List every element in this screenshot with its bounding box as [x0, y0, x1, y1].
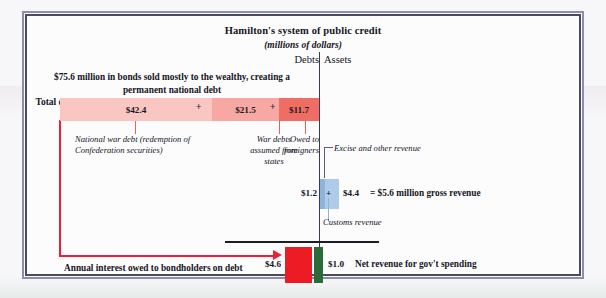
figure-title: Hamilton's system of public credit — [27, 25, 579, 36]
net-revenue-caption: Net revenue for gov't spending — [355, 259, 477, 269]
total-debt-pointer-vertical — [59, 120, 61, 257]
total-debt-pointer-horizontal — [59, 255, 275, 257]
debt-segment-national-war-debt: $42.4 — [60, 98, 212, 121]
net-revenue-value: $1.0 — [328, 259, 344, 269]
figure-subtitle: (millions of dollars) — [27, 40, 579, 50]
revenue-caption-customs: Customs revenue — [323, 217, 403, 228]
figure-container: Hamilton's system of public credit (mill… — [0, 0, 606, 298]
debt-leader-tick-national — [135, 121, 136, 134]
debt-leader-tick-states — [279, 121, 280, 134]
bonds-sold-caption: $75.6 million in bonds sold mostly to th… — [47, 71, 297, 96]
debt-caption-owed-to-foreigners: Owed to foreigners — [275, 134, 319, 156]
subtotal-rule — [225, 241, 379, 243]
gross-revenue-total-label: = $5.6 million gross revenue — [370, 188, 481, 198]
revenue-caption-excise-and-other: Excise and other revenue — [334, 143, 424, 154]
axis-label-debts: Debts — [222, 54, 319, 65]
revenue-bar-customs — [320, 179, 325, 209]
debt-segment-value: $21.5 — [235, 105, 256, 115]
debt-segment-owed-to-foreigners: $11.7 — [279, 98, 319, 121]
debt-plus-operator-1: + — [196, 102, 201, 112]
debt-plus-operator-2: + — [270, 102, 275, 112]
axis-label-assets: Assets — [324, 54, 434, 65]
excise-leader-bracket — [324, 147, 333, 178]
debt-segment-value: $11.7 — [289, 105, 309, 115]
revenue-plus-operator: + — [326, 188, 331, 198]
net-bar-net-revenue — [314, 247, 323, 283]
revenue-customs-value: $1.2 — [285, 188, 317, 198]
revenue-excise-value: $4.4 — [343, 188, 359, 198]
debt-stacked-bar: $42.4 $21.5 $11.7 — [60, 98, 319, 121]
annual-interest-caption: Annual interest owed to bondholders on d… — [64, 263, 243, 273]
debt-segment-value: $42.4 — [126, 105, 147, 115]
debt-segment-assumed-state-debts: $21.5 — [212, 98, 279, 121]
net-bar-annual-interest — [285, 247, 312, 283]
figure-canvas: Hamilton's system of public credit (mill… — [27, 16, 579, 274]
debt-caption-national-war-debt: National war debt (redemption of Confede… — [75, 134, 215, 156]
annual-interest-value: $4.6 — [253, 259, 281, 269]
debt-leader-tick-foreign — [305, 121, 306, 134]
